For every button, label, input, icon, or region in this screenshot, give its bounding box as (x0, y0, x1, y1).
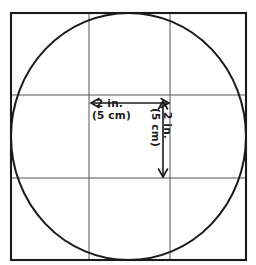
outer-square (11, 13, 246, 260)
grid-lines (11, 13, 246, 260)
inscribed-circle (11, 13, 246, 260)
geometry-diagram (0, 0, 256, 265)
horizontal-dimension-label-inches: 2 in. (96, 97, 123, 109)
horizontal-dimension-label-metric: (5 cm) (92, 109, 131, 121)
diagram-canvas: 2 in. (5 cm) 2 in. (5 cm) (0, 0, 256, 265)
vertical-dimension-label-metric: (5 cm) (150, 108, 162, 147)
vertical-dimension-label-group: 2 in. (5 cm) (147, 108, 163, 174)
vertical-dimension-label-inches: 2 in. (162, 112, 174, 139)
